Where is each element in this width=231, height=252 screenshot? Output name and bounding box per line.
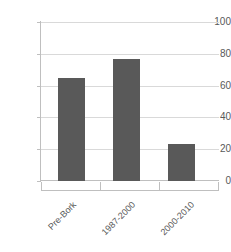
- x-tick-label-2000-2010: 2000-2010: [143, 200, 196, 252]
- bar-chart: 100 80 60 40 20 0 Pre-Bork 1987-2000: [0, 0, 231, 252]
- x-axis-separator-tick: [159, 182, 160, 191]
- x-axis-separator-tick: [100, 182, 101, 191]
- plot-area: [41, 22, 219, 181]
- bar-1987-2000: [113, 59, 140, 181]
- gridline-80: [41, 54, 219, 55]
- bar-2000-2010: [168, 144, 195, 181]
- gridline-100: [41, 22, 219, 23]
- bar-pre-bork: [58, 78, 85, 181]
- x-axis-line: [41, 190, 219, 191]
- x-tick-label-pre-bork: Pre-Bork: [25, 200, 78, 252]
- x-tick-label-1987-2000: 1987-2000: [84, 200, 137, 252]
- x-axis-separator-tick: [41, 182, 42, 191]
- x-axis-separator-tick: [218, 182, 219, 191]
